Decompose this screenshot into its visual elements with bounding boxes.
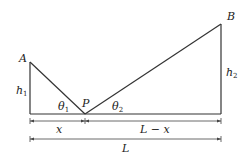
point-B-label: B [227,11,235,22]
reflection-diagram: A B P h1 h2 θ1 θ2 x L − x L [0,0,247,158]
dimension-L-minus-x-label: L − x [140,124,170,135]
point-A-label: A [19,53,27,64]
dimension-x-label: x [56,124,62,135]
height-h1-label: h1 [16,85,28,98]
dimension-L-label: L [122,143,129,154]
angle-theta1-label: θ1 [58,101,69,114]
diagram-lines [0,0,247,158]
segment-PB [85,24,221,114]
height-h2-label: h2 [226,67,238,80]
point-P-label: P [82,98,89,109]
angle-theta2-label: θ2 [112,101,123,114]
